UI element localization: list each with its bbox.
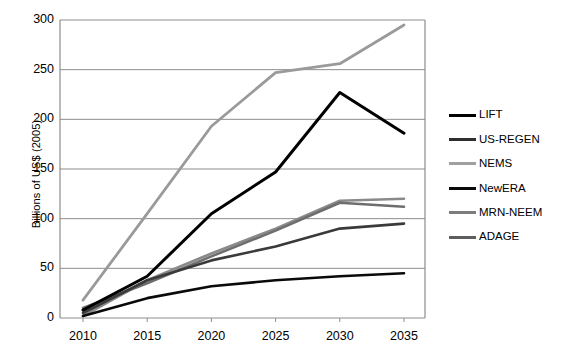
legend-swatch (449, 114, 476, 117)
legend-item-nems: NEMS (449, 152, 575, 176)
chart-legend: LIFTUS-REGENNEMSNewERAMRN-NEEMADAGE (449, 103, 575, 249)
legend-item-us-regen: US-REGEN (449, 127, 575, 151)
legend-swatch (449, 162, 476, 165)
line-chart: 050100150200250300 Billions of US$ (2005… (0, 0, 578, 363)
y-tick-label: 300 (14, 13, 54, 26)
x-tick-label: 2015 (117, 329, 177, 343)
legend-swatch (449, 236, 476, 239)
grid-lines (60, 20, 425, 318)
series-line-newera (83, 273, 404, 316)
legend-item-mrn-neem: MRN-NEEM (449, 201, 575, 225)
legend-item-newera: NewERA (449, 176, 575, 200)
x-tick-label: 2020 (181, 329, 241, 343)
legend-swatch (449, 138, 476, 141)
legend-swatch (449, 187, 476, 190)
legend-label: NewERA (479, 183, 526, 195)
legend-label: ADAGE (479, 231, 519, 243)
x-tick-label: 2025 (246, 329, 306, 343)
x-tick-label: 2010 (53, 329, 113, 343)
legend-label: NEMS (479, 158, 512, 170)
legend-label: US-REGEN (479, 134, 540, 146)
legend-label: MRN-NEEM (479, 207, 542, 219)
series-line-mrn-neem (83, 199, 404, 316)
x-tick-label: 2030 (310, 329, 370, 343)
legend-item-lift: LIFT (449, 103, 575, 127)
legend-label: LIFT (479, 109, 503, 121)
legend-item-adage: ADAGE (449, 225, 575, 249)
legend-swatch (449, 211, 476, 214)
x-axis-tick-marks (83, 318, 404, 322)
y-axis-title: Billions of US$ (2005) (30, 74, 42, 274)
series-line-nems (83, 25, 404, 300)
x-tick-label: 2035 (374, 329, 434, 343)
y-tick-label: 0 (14, 311, 54, 324)
series-lines (83, 25, 404, 316)
